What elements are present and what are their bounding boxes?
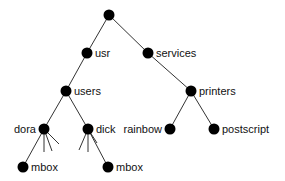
- label-rainbow: rainbow: [123, 123, 162, 135]
- label-services: services: [156, 47, 197, 59]
- node-users: [61, 86, 72, 97]
- edge-users-dora: [44, 91, 66, 129]
- label-printers: printers: [199, 85, 236, 97]
- label-dick: dick: [96, 123, 116, 135]
- node-services: [143, 48, 154, 59]
- node-printers: [186, 86, 197, 97]
- tree-labels: usrservicesusersprintersdoradickrainbowp…: [14, 47, 269, 173]
- node-dick: [83, 124, 94, 135]
- label-dora: dora: [14, 123, 37, 135]
- node-postscript: [209, 124, 220, 135]
- node-rainbow: [165, 124, 176, 135]
- edge-root-services: [109, 15, 148, 53]
- label-dora_mbox: mbox: [31, 161, 58, 173]
- node-dora: [39, 124, 50, 135]
- label-users: users: [74, 85, 101, 97]
- node-dick_mbox: [103, 162, 114, 173]
- node-usr: [82, 48, 93, 59]
- label-usr: usr: [95, 47, 111, 59]
- label-postscript: postscript: [222, 123, 269, 135]
- tree-edges: [23, 15, 214, 167]
- label-dick_mbox: mbox: [116, 161, 143, 173]
- edge-printers-rainbow: [170, 91, 191, 129]
- tree-nodes: [18, 10, 220, 173]
- node-dora_mbox: [18, 162, 29, 173]
- node-root: [104, 10, 115, 21]
- directory-tree-diagram: usrservicesusersprintersdoradickrainbowp…: [0, 0, 285, 181]
